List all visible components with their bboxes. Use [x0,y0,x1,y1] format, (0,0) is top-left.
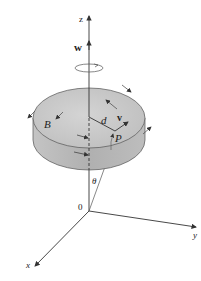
b-label: B [44,118,51,130]
theta-label: θ [92,176,97,186]
y-axis-label: y [192,230,197,240]
p-label: P [114,132,122,144]
x-axis [35,211,89,266]
z-axis-label: z [79,14,83,24]
w-label: w [74,41,82,53]
rim-arrow-top-right [122,85,131,92]
origin-label: 0 [78,202,83,212]
y-axis [89,211,196,227]
axes [35,150,196,266]
v-label: v [117,112,122,123]
x-axis-label: x [25,260,30,270]
d-label: d [101,114,107,126]
rotating-disk-diagram: z w B d v P θ 0 y x [0,0,201,281]
